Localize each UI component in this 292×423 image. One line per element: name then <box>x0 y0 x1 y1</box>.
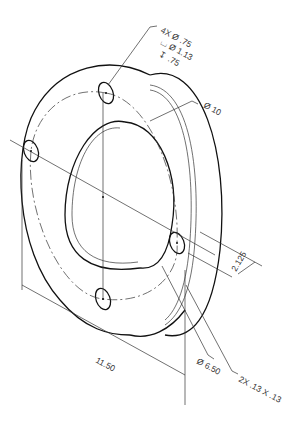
outer-front-edge <box>21 65 150 335</box>
inner-bore-back <box>125 122 174 268</box>
bottom-edge <box>130 310 185 336</box>
drawing-canvas: 4X Ø .75 ⌴ Ø 1.13 ↧ .75 Ø 10 2.125 11.50… <box>0 0 292 423</box>
callout-inner-dia: Ø 6.50 <box>195 356 222 377</box>
centermarks <box>30 92 178 300</box>
callout-chamfer: 2X .13 X .13 <box>237 374 283 405</box>
secondary-lines <box>10 26 262 405</box>
callout-overall: 11.50 <box>94 355 117 374</box>
inner-bore-front <box>65 121 140 269</box>
callout-thickness: 2.125 <box>229 249 248 273</box>
dimension-text: 4X Ø .75 ⌴ Ø 1.13 ↧ .75 Ø 10 2.125 11.50… <box>94 25 283 405</box>
